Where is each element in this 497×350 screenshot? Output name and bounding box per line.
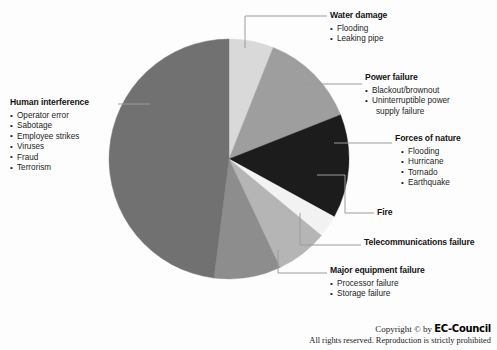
list-item: Storage failure (330, 289, 425, 299)
label-fire: Fire (377, 207, 392, 218)
pie-chart-svg (108, 38, 350, 280)
list-item: Employee strikes (10, 132, 89, 142)
list-item: Leaking pipe (330, 34, 387, 44)
list-item: Uninterruptible powersupply failure (365, 96, 450, 117)
copyright-prefix: Copyright © by (375, 324, 434, 334)
list-item: Hurricane (395, 157, 461, 167)
list-item: Flooding (395, 147, 461, 157)
list-item: Operator error (10, 111, 89, 121)
bullet-list-water-damage: Flooding Leaking pipe (330, 24, 387, 45)
pie-chart (108, 38, 350, 280)
list-item: Flooding (330, 24, 387, 34)
label-power-failure: Power failure Blackout/brownout Uninterr… (365, 72, 450, 117)
list-item-text-continued: supply failure (372, 107, 450, 117)
ec-council-brand: EC-Council (434, 323, 491, 334)
label-title-fire: Fire (377, 207, 392, 218)
pie-slice-human (109, 39, 229, 278)
list-item: Fraud (10, 153, 89, 163)
label-water-damage: Water damage Flooding Leaking pipe (330, 10, 387, 45)
label-title-human-interference: Human interference (10, 97, 89, 108)
label-major-equipment-failure: Major equipment failure Processor failur… (330, 265, 425, 300)
list-item: Processor failure (330, 279, 425, 289)
label-human-interference: Human interference Operator error Sabota… (10, 97, 89, 173)
label-telecommunications-failure: Telecommunications failure (364, 237, 474, 248)
list-item: Earthquake (395, 178, 461, 188)
list-item: Terrorism (10, 163, 89, 173)
label-title-telecommunications-failure: Telecommunications failure (364, 237, 474, 248)
list-item-text: Uninterruptible power (372, 96, 450, 105)
list-item: Viruses (10, 142, 89, 152)
list-item: Tornado (395, 168, 461, 178)
label-title-forces-of-nature: Forces of nature (395, 133, 461, 144)
bullet-list-human-interference: Operator error Sabotage Employee strikes… (10, 111, 89, 173)
list-item: Blackout/brownout (365, 86, 450, 96)
footer: Copyright © by EC-Council All rights res… (309, 323, 491, 346)
chart-page: Human interference Operator error Sabota… (0, 0, 497, 350)
list-item: Sabotage (10, 121, 89, 131)
bullet-list-power-failure: Blackout/brownout Uninterruptible powers… (365, 86, 450, 117)
label-title-water-damage: Water damage (330, 10, 387, 21)
label-forces-of-nature: Forces of nature Flooding Hurricane Torn… (395, 133, 461, 189)
bullet-list-forces-of-nature: Flooding Hurricane Tornado Earthquake (395, 147, 461, 189)
bullet-list-major-equipment-failure: Processor failure Storage failure (330, 279, 425, 300)
copyright-line: Copyright © by EC-Council (309, 323, 491, 335)
label-title-major-equipment-failure: Major equipment failure (330, 265, 425, 276)
label-title-power-failure: Power failure (365, 72, 450, 83)
rights-reserved-line: All rights reserved. Reproduction is str… (309, 335, 491, 346)
